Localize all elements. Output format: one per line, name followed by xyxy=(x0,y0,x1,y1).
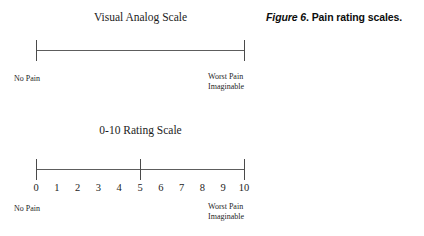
anchor-right-label-line2: Imaginable xyxy=(208,82,244,92)
numeric-rating-scale-numbers: 012345678910 xyxy=(36,181,245,195)
anchor-right-label-line2: Imaginable xyxy=(208,212,244,222)
ruler-tick-start xyxy=(36,159,37,180)
ruler-tick-end xyxy=(244,159,245,180)
ruler-tick-end xyxy=(244,40,245,61)
visual-analog-scale-anchor-right: Worst Pain Imaginable xyxy=(208,72,244,92)
scale-number-10: 10 xyxy=(234,181,254,194)
scale-number-1: 1 xyxy=(47,181,67,194)
ruler-line xyxy=(36,50,245,51)
scale-number-0: 0 xyxy=(26,181,46,194)
numeric-rating-scale-anchor-right: Worst Pain Imaginable xyxy=(208,202,244,222)
visual-analog-scale-title: Visual Analog Scale xyxy=(0,10,281,24)
anchor-right-label-line1: Worst Pain xyxy=(208,202,244,212)
anchor-right-label-line1: Worst Pain xyxy=(208,72,244,82)
ruler-tick-mid xyxy=(140,159,141,180)
scale-number-6: 6 xyxy=(151,181,171,194)
numeric-rating-scale-anchor-left: No Pain xyxy=(14,204,40,214)
visual-analog-scale-ruler xyxy=(36,40,245,60)
numeric-rating-scale-ruler xyxy=(36,159,245,179)
scale-number-4: 4 xyxy=(109,181,129,194)
scale-number-8: 8 xyxy=(192,181,212,194)
scale-number-3: 3 xyxy=(88,181,108,194)
figure-canvas: Figure 6. Pain rating scales. Visual Ana… xyxy=(0,0,424,236)
anchor-left-label: No Pain xyxy=(14,204,40,214)
anchor-left-label: No Pain xyxy=(14,74,40,84)
ruler-tick-start xyxy=(36,40,37,61)
scale-number-9: 9 xyxy=(213,181,233,194)
figure-caption-text: Pain rating scales. xyxy=(312,11,402,23)
visual-analog-scale-anchor-left: No Pain xyxy=(14,74,40,84)
scale-number-5: 5 xyxy=(130,181,150,194)
scale-number-2: 2 xyxy=(68,181,88,194)
numeric-rating-scale-title: 0-10 Rating Scale xyxy=(0,123,281,137)
figure-caption: Figure 6. Pain rating scales. xyxy=(266,11,424,24)
scale-number-7: 7 xyxy=(172,181,192,194)
